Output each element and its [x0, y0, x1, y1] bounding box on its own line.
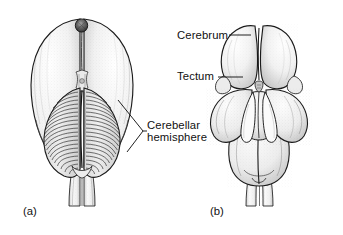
figure-plate: Cerebellarhemisphere Cerebrum Tectum (a)… [0, 0, 343, 235]
label-cerebellar-hemisphere: Cerebellarhemisphere [147, 119, 207, 144]
label-tectum: Tectum [177, 70, 214, 82]
label-cerebellar-line2: hemisphere [147, 131, 207, 143]
label-cerebellar-line1: Cerebellar [147, 119, 200, 131]
label-cerebrum: Cerebrum [177, 29, 228, 41]
panel-a-pineal-organ [75, 19, 87, 32]
panel-label-a: (a) [23, 205, 37, 217]
brain-illustration-svg [0, 0, 343, 235]
panel-label-b: (b) [210, 205, 224, 217]
